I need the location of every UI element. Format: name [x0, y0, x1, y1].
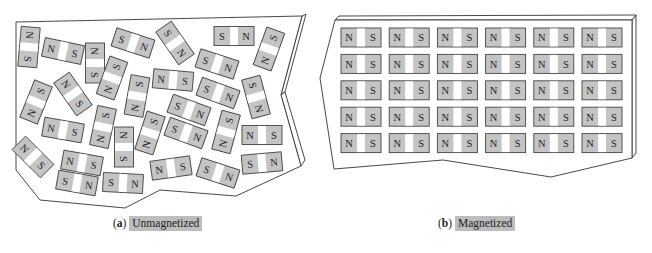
magnetization-diagram: NSNSNSSNSNSNNSSNNSNSNSNSNSSNSNSNNSNSNSNS… [0, 0, 652, 253]
magnet-pole-label: N [586, 32, 594, 43]
magnet-pole-label: N [538, 85, 546, 96]
bar-magnet: NS [486, 81, 526, 100]
magnet-pole-label: N [118, 131, 129, 139]
caption-a-label: Unmagnetized [129, 216, 202, 231]
magnet-pole-label: N [490, 32, 498, 43]
magnet-pole-label: N [442, 59, 450, 70]
magnet-pole-label: S [370, 138, 376, 149]
bar-magnet: NS [389, 28, 429, 47]
caption-b: (b) Magnetized [438, 217, 515, 229]
magnet-pole-label: S [466, 59, 472, 70]
bar-magnet: NS [437, 107, 477, 126]
magnet-pole-label: N [586, 59, 594, 70]
magnet-pole-label: S [370, 32, 376, 43]
magnet-pole-label: N [131, 178, 140, 189]
magnet-pole-label: N [345, 59, 353, 70]
magnet-pole-label: S [370, 85, 376, 96]
magnet-pole-label: S [611, 138, 617, 149]
magnet-pole-label: N [586, 112, 594, 123]
bar-magnet: NS [582, 28, 622, 47]
bar-magnet: NS [534, 28, 574, 47]
bar-magnet: NS [341, 134, 381, 153]
magnet-pole-label: S [515, 138, 521, 149]
magnet-pole-label: S [219, 31, 225, 42]
bar-magnet: NS [18, 26, 40, 68]
magnet-pole-label: N [24, 31, 36, 40]
magnet-pole-label: N [246, 130, 254, 141]
magnet-pole-label: N [490, 138, 498, 149]
magnet-pole-label: N [442, 32, 450, 43]
magnet-pole-label: N [270, 156, 279, 168]
magnet-pole-label: S [563, 112, 569, 123]
magnet-pole-label: N [393, 85, 401, 96]
magnet-pole-label: S [515, 85, 521, 96]
bar-magnet: NS [437, 134, 477, 153]
magnet-pole-label: S [611, 85, 617, 96]
magnet-pole-label: S [182, 76, 189, 87]
bar-magnet: NS [341, 28, 381, 47]
magnet-pole-label: S [563, 59, 569, 70]
magnet-pole-label: S [515, 112, 521, 123]
bar-magnet: NS [534, 81, 574, 100]
bar-magnet: NS [437, 54, 477, 73]
magnet-pole-label: S [89, 72, 100, 78]
magnet-pole-label: S [466, 32, 472, 43]
magnet-pole-label: N [442, 138, 450, 149]
magnet-pole-label: N [490, 112, 498, 123]
magnet-pole-label: S [563, 85, 569, 96]
bar-magnet: NS [534, 134, 574, 153]
bar-magnet: NS [486, 28, 526, 47]
magnet-pole-label: S [108, 177, 115, 188]
magnet-pole-label: N [345, 138, 353, 149]
bar-magnet: NS [582, 81, 622, 100]
magnet-pole-label: S [611, 112, 617, 123]
magnet-pole-label: N [393, 138, 401, 149]
magnet-pole-label: S [370, 59, 376, 70]
magnet-pole-label: N [538, 32, 546, 43]
magnet-pole-label: N [345, 85, 353, 96]
magnet-pole-label: S [22, 56, 33, 63]
bar-magnet: NS [389, 54, 429, 73]
bar-magnet: SN [214, 27, 254, 46]
magnet-pole-label: N [242, 31, 250, 42]
bar-magnet: NS [486, 107, 526, 126]
bar-magnet: NS [582, 134, 622, 153]
magnet-pole-label: S [466, 112, 472, 123]
magnet-pole-label: N [345, 112, 353, 123]
bar-magnet: NS [86, 43, 105, 83]
magnet-pole-label: N [89, 47, 100, 55]
panel-b-block-edge [632, 15, 636, 158]
bar-magnet: NS [534, 107, 574, 126]
bar-magnet: NS [389, 81, 429, 100]
bar-magnet: NS [389, 107, 429, 126]
caption-a: (a) Unmagnetized [113, 217, 202, 229]
bar-magnet: NS [341, 81, 381, 100]
magnet-pole-label: N [490, 85, 498, 96]
magnet-pole-label: N [586, 138, 594, 149]
bar-magnet: NS [582, 54, 622, 73]
magnet-pole-label: S [466, 138, 472, 149]
magnet-pole-label: N [393, 59, 401, 70]
bar-magnet: NS [534, 54, 574, 73]
magnet-pole-label: N [393, 112, 401, 123]
magnet-pole-label: S [418, 138, 424, 149]
magnet-pole-label: S [370, 112, 376, 123]
magnet-pole-label: S [515, 32, 521, 43]
caption-b-tag: b [442, 217, 448, 229]
magnet-pole-label: S [418, 59, 424, 70]
bar-magnet: NS [582, 107, 622, 126]
magnet-pole-label: N [442, 85, 450, 96]
magnet-pole-label: N [442, 112, 450, 123]
bar-magnet: NS [115, 127, 134, 167]
magnet-pole-label: S [611, 59, 617, 70]
magnet-pole-label: S [271, 130, 277, 141]
magnet-pole-label: S [611, 32, 617, 43]
bar-magnet: NS [389, 134, 429, 153]
bar-magnet: NS [341, 54, 381, 73]
magnet-pole-label: N [157, 73, 166, 85]
magnet-pole-label: S [515, 59, 521, 70]
bar-magnet: NS [242, 126, 282, 145]
bar-magnet: NS [341, 107, 381, 126]
bar-magnet: NS [152, 69, 194, 91]
magnet-pole-label: S [247, 159, 254, 170]
